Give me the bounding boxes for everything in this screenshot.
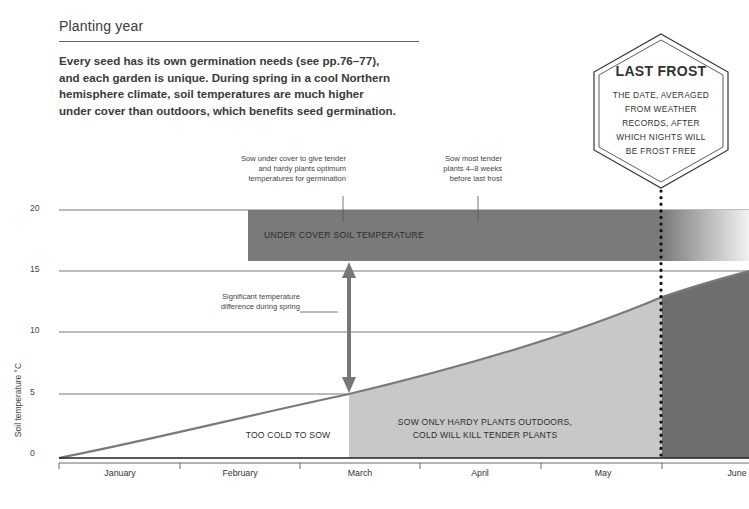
annotation-line: and hardy plants optimum [196, 164, 346, 174]
temperature-difference-arrow [342, 262, 356, 393]
annotation-line: plants 4–8 weeks [412, 164, 502, 174]
y-tick-20: 20 [30, 203, 39, 213]
frost-line: WHICH NIGHTS WILL [596, 130, 726, 144]
frost-line: RECORDS, AFTER [596, 116, 726, 130]
month-may: May [563, 468, 643, 478]
month-june: June [697, 468, 749, 478]
last-frost-description: THE DATE, AVERAGED FROM WEATHER RECORDS,… [596, 88, 726, 158]
annotation-line: Sow under cover to give tender [196, 154, 346, 164]
annotation-line: Sow most tender [412, 154, 502, 164]
zone-line: SOW ONLY HARDY PLANTS OUTDOORS, [380, 416, 590, 429]
y-axis-label: Soil temperature °C [13, 360, 23, 440]
month-march: March [320, 468, 400, 478]
zone-line: TOO COLD TO SOW [228, 429, 348, 442]
hardy-outdoors-label: SOW ONLY HARDY PLANTS OUTDOORS, COLD WIL… [380, 416, 590, 442]
frost-line: BE FROST FREE [596, 144, 726, 158]
month-february: February [200, 468, 280, 478]
too-cold-label: TOO COLD TO SOW [228, 429, 348, 442]
annotation-line: before last frost [412, 174, 502, 184]
y-tick-0: 0 [30, 448, 35, 458]
under-cover-label: UNDER COVER SOIL TEMPERATURE [264, 230, 424, 240]
last-frost-title: LAST FROST [594, 63, 728, 79]
frost-line: FROM WEATHER [596, 102, 726, 116]
annotation-line: temperatures for germination [196, 174, 346, 184]
annotation-sow-tender: Sow most tender plants 4–8 weeks before … [412, 154, 502, 184]
annotation-temp-difference: Significant temperature difference durin… [170, 292, 300, 312]
annotation-line: difference during spring [170, 302, 300, 312]
frost-free-fill [662, 260, 749, 460]
y-tick-10: 10 [30, 325, 39, 335]
month-january: January [80, 468, 160, 478]
month-april: April [440, 468, 520, 478]
annotation-sow-under-cover: Sow under cover to give tender and hardy… [196, 154, 346, 184]
frost-line: THE DATE, AVERAGED [596, 88, 726, 102]
annotation-line: Significant temperature [170, 292, 300, 302]
y-tick-5: 5 [30, 387, 35, 397]
y-tick-15: 15 [30, 264, 39, 274]
zone-line: COLD WILL KILL TENDER PLANTS [380, 429, 590, 442]
